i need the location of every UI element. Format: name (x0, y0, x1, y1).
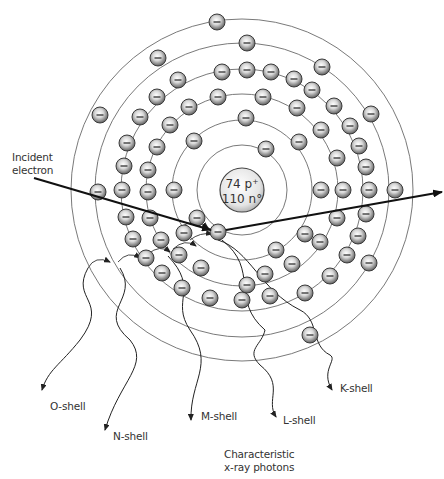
electron (234, 292, 250, 308)
electron (171, 247, 187, 263)
electron (255, 89, 271, 105)
incident-label-line2: electron (12, 164, 53, 177)
electron (312, 234, 328, 250)
electron (263, 64, 279, 80)
electron (286, 71, 302, 87)
electron (149, 139, 165, 155)
electron (132, 109, 148, 125)
electron (125, 231, 141, 247)
electron (304, 82, 320, 98)
electron (313, 122, 329, 138)
nucleus: 74 p⁺ 110 n° (220, 168, 264, 212)
svg-text:110 n°: 110 n° (222, 192, 262, 206)
electron (150, 50, 166, 66)
electron (284, 256, 300, 272)
electron (297, 285, 313, 301)
electron (119, 135, 135, 151)
electron (329, 150, 345, 166)
electron (350, 228, 366, 244)
electron (335, 182, 351, 198)
electron (297, 226, 313, 242)
electron (210, 89, 226, 105)
l-shell-label: L-shell (283, 414, 315, 427)
electron (361, 182, 377, 198)
caption: Characteristic x-ray photons (224, 448, 294, 474)
electron (262, 288, 278, 304)
electron (209, 14, 225, 30)
electron (153, 232, 169, 248)
electron (339, 247, 355, 263)
n-shell-label: N-shell (113, 430, 148, 443)
electron (186, 133, 202, 149)
electron (363, 106, 379, 122)
electron (154, 265, 170, 281)
m-shell-label: M-shell (201, 410, 237, 423)
k-shell-label: K-shell (340, 382, 373, 395)
incident-electron-label: Incident electron (12, 151, 53, 177)
incident-label-line1: Incident (12, 151, 53, 164)
electron (210, 224, 226, 240)
k-shell-photon (218, 240, 332, 390)
electron (326, 98, 342, 114)
electron (116, 158, 132, 174)
electron (302, 327, 318, 343)
electron (322, 268, 338, 284)
electron (176, 225, 192, 241)
electron (193, 260, 209, 276)
electron (181, 99, 197, 115)
electron (140, 162, 156, 178)
svg-text:74 p⁺: 74 p⁺ (225, 177, 258, 191)
atom-diagram: 74 p⁺ 110 n° Incident electron O-shellN-… (0, 0, 444, 479)
electron (170, 72, 186, 88)
electron (358, 159, 374, 175)
electron (257, 266, 273, 282)
caption-line1: Characteristic (224, 448, 294, 461)
electron (351, 138, 367, 154)
electron (239, 277, 255, 293)
electron (202, 290, 218, 306)
o-shell-photon (42, 268, 92, 390)
electron (149, 89, 165, 105)
electron (268, 242, 284, 258)
electron (258, 141, 274, 157)
electron (361, 255, 377, 271)
electron (342, 118, 358, 134)
electron (174, 280, 190, 296)
electron (162, 117, 178, 133)
caption-line2: x-ray photons (224, 461, 294, 474)
electron (118, 209, 134, 225)
electron (238, 110, 254, 126)
electron (289, 100, 305, 116)
electron (313, 182, 329, 198)
electron (239, 35, 255, 51)
electron (214, 64, 230, 80)
electron (92, 107, 108, 123)
o-shell-label: O-shell (50, 400, 85, 413)
electron (387, 182, 403, 198)
electron (239, 62, 255, 78)
electron (114, 182, 130, 198)
electron (138, 250, 154, 266)
n-shell-photon (105, 268, 137, 430)
electron (358, 206, 374, 222)
electron (314, 59, 330, 75)
electron (291, 134, 307, 150)
electron (166, 182, 182, 198)
electron (140, 184, 156, 200)
